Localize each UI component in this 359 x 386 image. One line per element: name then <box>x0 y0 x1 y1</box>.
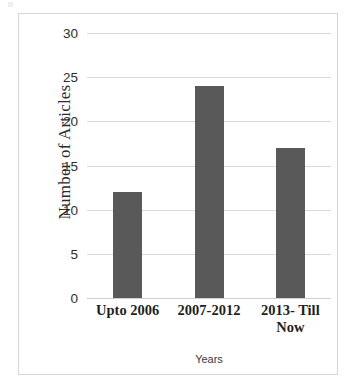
chart-figure-frame: Number of Articles 051015202530 Upto 200… <box>18 13 338 375</box>
x-axis-title: Years <box>87 353 331 365</box>
gridline <box>87 298 331 299</box>
x-axis-category-label: 2013- Till Now <box>244 302 336 336</box>
plot-area: 051015202530 <box>87 33 331 298</box>
x-axis-category-label-line: Upto 2006 <box>96 302 159 318</box>
y-axis-tick-label: 0 <box>70 291 78 306</box>
x-axis-category-labels: Upto 20062007-20122013- Till Now <box>87 302 331 348</box>
x-axis-category-label-line: 2007-2012 <box>178 302 241 318</box>
bar <box>113 192 142 298</box>
y-axis-tick-label: 5 <box>70 246 78 261</box>
bar <box>276 148 305 298</box>
y-axis-tick-label: 15 <box>63 158 78 173</box>
bar <box>195 86 224 298</box>
scan-artifact <box>8 2 13 7</box>
y-axis-tick-label: 25 <box>63 70 78 85</box>
x-axis-category-label: Upto 2006 <box>82 302 174 319</box>
y-axis-tick-label: 20 <box>63 114 78 129</box>
x-axis-category-label-line: Now <box>244 319 336 336</box>
y-axis-tick-label: 30 <box>63 26 78 41</box>
x-axis-category-label-line: 2013- Till <box>261 302 320 318</box>
x-axis-category-label: 2007-2012 <box>163 302 255 319</box>
bar-series <box>87 33 331 298</box>
y-axis-tick-label: 10 <box>63 202 78 217</box>
